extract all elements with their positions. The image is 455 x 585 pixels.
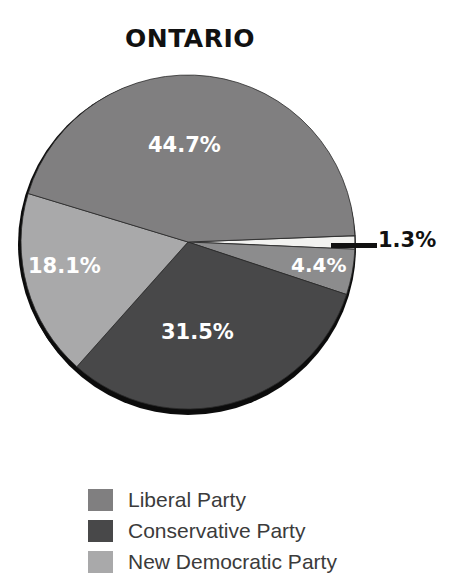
chart-legend: Liberal PartyConservative PartyNew Democ… <box>88 484 418 577</box>
slice-label-other: 4.4% <box>291 253 346 277</box>
slice-label-conservative: 31.5% <box>161 320 234 344</box>
slice-label-liberal: 44.7% <box>148 133 221 157</box>
chart-title: ONTARIO <box>0 24 380 53</box>
pie-chart-graphic <box>0 58 400 438</box>
legend-label: Liberal Party <box>128 489 246 510</box>
slice-label-other2: 1.3% <box>378 228 436 252</box>
legend-swatch-icon <box>88 520 113 542</box>
leader-line-other2 <box>331 243 377 248</box>
legend-label: Conservative Party <box>128 520 305 541</box>
legend-label: New Democratic Party <box>128 551 337 572</box>
legend-swatch-icon <box>88 551 113 573</box>
pie-chart-figure: ONTARIO 44.7% 31.5% 18.1% 4.4% 1.3% Libe… <box>0 0 455 585</box>
legend-item-liberal-party[interactable]: Liberal Party <box>88 484 418 515</box>
slice-label-ndp: 18.1% <box>28 254 101 278</box>
legend-item-new-democratic-party[interactable]: New Democratic Party <box>88 546 418 577</box>
legend-item-conservative-party[interactable]: Conservative Party <box>88 515 418 546</box>
legend-swatch-icon <box>88 489 113 511</box>
pie-svg <box>0 58 400 438</box>
pie-slices <box>21 75 355 409</box>
